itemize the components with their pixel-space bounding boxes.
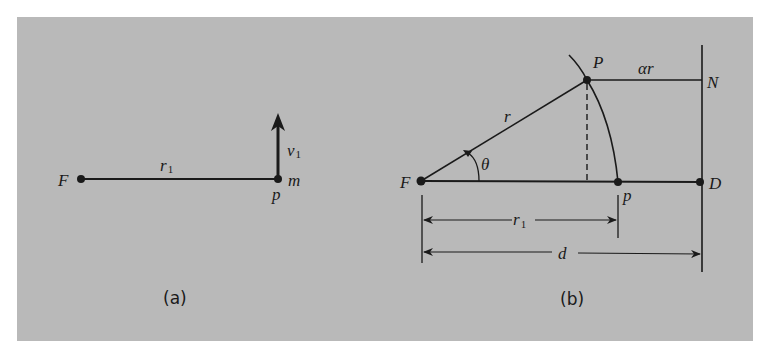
focus-point-F [77, 175, 85, 183]
label-r: r [504, 107, 511, 126]
caption-b: (b) [560, 289, 584, 309]
label-F: F [399, 173, 411, 192]
focus-point-F [417, 177, 426, 186]
label-m: m [288, 171, 300, 190]
orbit-point-P [583, 76, 591, 84]
caption-a: (a) [163, 288, 187, 308]
axis-line-FD [421, 181, 702, 182]
perihelion-point-p [614, 178, 622, 186]
label-F: F [57, 171, 69, 190]
label-p: p [622, 186, 632, 205]
orbit-geometry-figure: F r1 v1 m p (a) r1 [0, 0, 774, 357]
label-N: N [706, 73, 720, 92]
directrix-foot-D [696, 178, 704, 186]
label-d-dimension: d [558, 244, 567, 263]
label-P: P [592, 53, 603, 72]
label-D: D [708, 174, 722, 193]
label-alpha-r: αr [638, 59, 654, 78]
label-theta: θ [481, 155, 489, 174]
label-p: p [271, 185, 281, 204]
